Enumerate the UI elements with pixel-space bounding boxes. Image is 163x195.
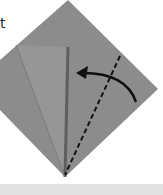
- paper-square: [0, 0, 158, 177]
- bottom-strip: [0, 184, 163, 195]
- origami-fold-diagram: [0, 0, 163, 195]
